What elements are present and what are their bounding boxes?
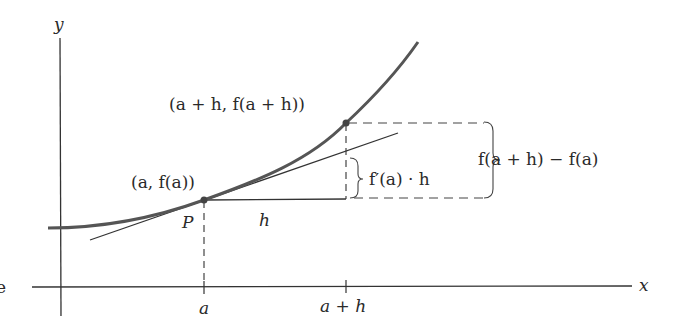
tick-label-a: a xyxy=(199,298,209,318)
actual-rise-label: f(a + h) − f(a) xyxy=(478,149,598,169)
y-axis-label: y xyxy=(53,14,64,34)
tangent-rise-label: f′(a) · h xyxy=(369,169,430,189)
small-brace-icon xyxy=(350,158,363,198)
h-segment xyxy=(204,199,346,200)
point-q xyxy=(343,120,350,127)
x-axis-label: x xyxy=(639,275,649,295)
h-label: h xyxy=(259,210,270,230)
y-axis xyxy=(60,38,61,316)
point-p-label: P xyxy=(181,212,194,232)
x-axis xyxy=(32,286,632,287)
tangent-approximation-diagram: y x e a a + h h P (a, f(a)) (a + h, f(a … xyxy=(0,0,682,331)
point-q-coordinates: (a + h, f(a + h)) xyxy=(169,94,305,114)
point-p xyxy=(201,197,208,204)
point-p-coordinates: (a, f(a)) xyxy=(131,172,195,192)
margin-text-fragment: e xyxy=(0,277,6,297)
tick-label-a-plus-h: a + h xyxy=(320,296,366,316)
